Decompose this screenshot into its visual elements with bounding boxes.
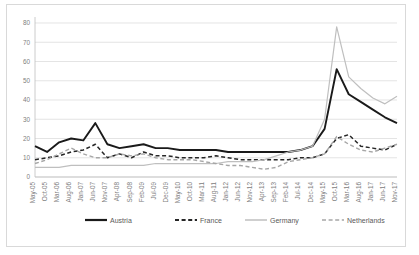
x-tick-label: Jul-09 bbox=[150, 182, 157, 200]
x-tick-label: Sep-08 bbox=[126, 182, 134, 203]
x-tick-label: Nov-07 bbox=[101, 182, 108, 203]
line-chart: 01020304050607080 May-05Oct-05Mar-06Aug-… bbox=[7, 5, 405, 246]
data-series-group bbox=[35, 27, 397, 169]
legend-label-austria: Austria bbox=[110, 217, 132, 224]
y-tick-label: 50 bbox=[23, 77, 31, 84]
y-tick-label: 10 bbox=[23, 154, 31, 161]
x-tick-label: Mar-11 bbox=[198, 182, 205, 202]
x-tick-label: Jan-07 bbox=[77, 182, 84, 202]
x-axis-tick-labels: May-05Oct-05Mar-06Aug-06Jan-07Jun-07Nov-… bbox=[29, 182, 398, 204]
chart-legend: AustriaFranceGermanyNetherlands bbox=[85, 217, 385, 225]
y-tick-label: 0 bbox=[26, 173, 30, 180]
x-tick-label: Mar-06 bbox=[53, 182, 60, 203]
x-tick-label: Jul-14 bbox=[294, 182, 301, 200]
chart-container: 01020304050607080 May-05Oct-05Mar-06Aug-… bbox=[6, 4, 406, 247]
gridlines bbox=[35, 17, 397, 177]
x-tick-label: Mar-16 bbox=[343, 182, 350, 203]
x-tick-label: Sep-13 bbox=[270, 182, 278, 203]
legend-label-france: France bbox=[200, 217, 222, 224]
legend-label-netherlands: Netherlands bbox=[347, 217, 385, 224]
x-tick-label: Oct-05 bbox=[41, 182, 48, 202]
legend-label-germany: Germany bbox=[270, 217, 299, 225]
x-tick-label: Oct-10 bbox=[186, 182, 193, 202]
series-line-austria bbox=[35, 69, 397, 152]
series-line-germany bbox=[35, 27, 397, 168]
y-tick-label: 70 bbox=[23, 39, 31, 46]
y-tick-label: 60 bbox=[23, 58, 31, 65]
x-tick-label: Jan-17 bbox=[367, 182, 374, 202]
x-tick-label: Feb-09 bbox=[138, 182, 145, 203]
x-tick-label: May-15 bbox=[319, 182, 327, 204]
x-tick-label: Nov-12 bbox=[246, 182, 253, 203]
x-tick-label: Nov-17 bbox=[391, 182, 398, 203]
x-tick-label: Jun-12 bbox=[234, 182, 241, 202]
x-tick-label: Feb-14 bbox=[282, 182, 289, 203]
y-tick-label: 40 bbox=[23, 96, 31, 103]
x-tick-label: Aug-06 bbox=[65, 182, 73, 203]
x-tick-label: Jun-07 bbox=[89, 182, 96, 202]
x-tick-label: Apr-08 bbox=[113, 182, 121, 202]
y-tick-label: 20 bbox=[23, 135, 31, 142]
x-tick-label: May-05 bbox=[29, 182, 37, 204]
x-tick-label: Dec-14 bbox=[307, 182, 314, 203]
x-tick-label: Aug-11 bbox=[210, 182, 218, 203]
x-tick-label: Aug-16 bbox=[355, 182, 363, 203]
y-axis-tick-labels: 01020304050607080 bbox=[23, 19, 31, 180]
x-tick-label: Oct-15 bbox=[331, 182, 338, 202]
x-tick-label: Dec-09 bbox=[162, 182, 169, 203]
x-tick-label: Jun-17 bbox=[379, 182, 386, 202]
x-tick-label: Jan-12 bbox=[222, 182, 229, 202]
x-tick-label: Apr-13 bbox=[258, 182, 266, 202]
y-tick-label: 30 bbox=[23, 116, 31, 123]
x-tick-label: May-10 bbox=[174, 182, 182, 204]
series-line-netherlands bbox=[35, 137, 397, 170]
y-tick-label: 80 bbox=[23, 19, 31, 26]
